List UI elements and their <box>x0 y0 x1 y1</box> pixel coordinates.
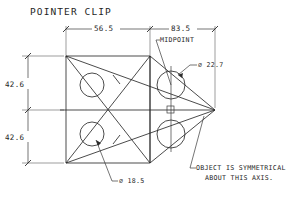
hole-large-label: ⌀ 22.7 <box>198 61 224 69</box>
part-outline-group <box>66 56 215 163</box>
midpoint-label: MIDPOINT <box>160 36 194 44</box>
hole-large-callout-group: ⌀ 22.7 <box>178 61 224 78</box>
dim-label-top-left: 56.5 <box>94 24 113 33</box>
hole-centerlines-group <box>167 66 174 152</box>
hole-small-label: ⌀ 18.5 <box>119 177 145 185</box>
dia-22-leader-line <box>178 65 190 75</box>
chamfer-lower-left <box>113 135 120 144</box>
center-square-marker <box>167 106 174 113</box>
hole-lower-left <box>80 122 104 146</box>
dim-label-top-right: 83.5 <box>171 24 190 33</box>
facet-lower-long <box>66 110 215 163</box>
chamfer-upper-left <box>113 75 120 84</box>
outline-nose-lower <box>150 110 215 163</box>
holes-group <box>80 71 185 148</box>
construction-lines-group <box>60 56 215 163</box>
left-dimension-group: 42.6 42.6 <box>4 53 64 166</box>
symmetry-leader-line <box>190 116 204 168</box>
hole-upper-left <box>80 73 104 97</box>
dim-label-left-upper: 42.6 <box>5 80 25 89</box>
dim-label-left-lower: 42.6 <box>5 133 25 142</box>
symmetry-note-line-2: ABOUT THIS AXIS. <box>205 174 273 182</box>
facet-upper-long <box>66 56 215 110</box>
symmetry-note-group: OBJECT IS SYMMETRICAL ABOUT THIS AXIS. <box>190 116 286 182</box>
symmetry-note-line-1: OBJECT IS SYMMETRICAL <box>196 164 286 172</box>
drawing-viewport: POINTER CLIP 56.5 83.5 <box>0 0 304 207</box>
midpoint-callout-group: MIDPOINT <box>156 36 194 85</box>
drawing-title: POINTER CLIP <box>30 6 112 17</box>
technical-drawing-canvas: POINTER CLIP 56.5 83.5 <box>0 0 304 207</box>
dia-18-leader-line <box>96 140 112 181</box>
